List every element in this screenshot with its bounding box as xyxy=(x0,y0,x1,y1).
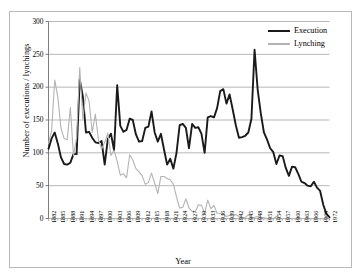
legend-label: Execution xyxy=(294,27,327,35)
legend-swatch xyxy=(268,30,290,32)
x-tick-label: 1966 xyxy=(313,211,319,223)
x-tick-label: 1909 xyxy=(135,211,141,223)
x-tick-label: 1882 xyxy=(51,211,57,223)
x-tick-label: 1969 xyxy=(323,211,329,223)
x-tick-label: 1897 xyxy=(98,211,104,223)
x-tick-label: 1888 xyxy=(70,211,76,223)
x-tick-label: 1942 xyxy=(238,211,244,223)
y-tick-label: 50 xyxy=(22,182,44,189)
y-tick-label: 200 xyxy=(22,83,44,90)
x-tick-label: 1939 xyxy=(229,211,235,223)
x-tick-label: 1960 xyxy=(295,211,301,223)
legend-label: Lynching xyxy=(294,40,325,48)
y-tick-label: 150 xyxy=(22,116,44,123)
x-tick-label: 1951 xyxy=(267,211,273,223)
x-tick-label: 1948 xyxy=(257,211,263,223)
x-tick-label: 1972 xyxy=(332,211,338,223)
x-tick-label: 1891 xyxy=(79,211,85,223)
x-tick-label: 1954 xyxy=(276,211,282,223)
x-tick-label: 1912 xyxy=(145,211,151,223)
x-tick-label: 1903 xyxy=(117,211,123,223)
x-tick-label: 1894 xyxy=(89,211,95,223)
y-tick-label: 0 xyxy=(22,215,44,222)
x-tick-label: 1945 xyxy=(248,211,254,223)
x-tick-label: 1933 xyxy=(210,211,216,223)
legend-swatch xyxy=(268,43,290,45)
x-tick-label: 1915 xyxy=(154,211,160,223)
x-tick-label: 1885 xyxy=(60,211,66,223)
x-tick-label: 1924 xyxy=(182,211,188,223)
y-tick-label: 100 xyxy=(22,149,44,156)
x-tick-label: 1906 xyxy=(126,211,132,223)
chart-figure: Number of executions / lynchings Year 05… xyxy=(0,0,361,278)
x-tick-label: 1900 xyxy=(107,211,113,223)
y-tick-label: 250 xyxy=(22,51,44,58)
x-tick-label: 1927 xyxy=(192,211,198,223)
x-tick-label: 1918 xyxy=(164,211,170,223)
x-tick-label: 1936 xyxy=(220,211,226,223)
x-tick-label: 1963 xyxy=(304,211,310,223)
y-tick-label: 300 xyxy=(22,18,44,25)
x-tick-label: 1930 xyxy=(201,211,207,223)
x-tick-label: 1957 xyxy=(285,211,291,223)
x-tick-label: 1921 xyxy=(173,211,179,223)
x-axis-title: Year xyxy=(48,256,318,266)
